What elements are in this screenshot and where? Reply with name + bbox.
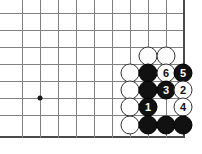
stone-move-number: 1 xyxy=(145,101,151,112)
stone-move-number: 2 xyxy=(180,84,186,95)
white-move-4: 4 xyxy=(174,98,193,117)
black-move-1: 1 xyxy=(139,98,158,117)
grid-line-horizontal xyxy=(0,81,184,82)
grid-line-vertical xyxy=(22,0,23,138)
black-stone-3 xyxy=(139,116,158,135)
stone-move-number: 4 xyxy=(180,101,186,112)
white-stone-6 xyxy=(121,116,140,135)
grid-line-horizontal xyxy=(0,115,184,116)
black-stone-5 xyxy=(174,116,193,135)
grid-line-vertical xyxy=(58,0,59,138)
star-point xyxy=(38,96,43,101)
board-bottom-edge xyxy=(0,136,184,138)
grid-line-vertical xyxy=(112,0,113,138)
grid-line-horizontal xyxy=(0,47,184,48)
grid-line-horizontal xyxy=(0,30,184,31)
white-stone-5 xyxy=(121,98,140,117)
grid-line-horizontal xyxy=(0,64,184,65)
stone-move-number: 3 xyxy=(163,84,169,95)
grid-line-horizontal xyxy=(0,98,184,99)
stone-move-number: 6 xyxy=(163,67,169,78)
grid-line-vertical xyxy=(40,0,41,138)
stone-move-number: 5 xyxy=(180,67,186,78)
grid-line-vertical xyxy=(76,0,77,138)
grid-line-vertical xyxy=(94,0,95,138)
grid-line-horizontal xyxy=(0,13,184,14)
go-board-diagram: 653214 xyxy=(0,0,202,154)
